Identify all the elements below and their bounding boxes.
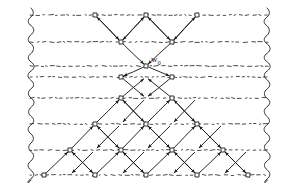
edge-up-right-10 [148,152,170,173]
node-marker-r6-3 [221,148,225,152]
node-marker-r0-0 [93,13,97,17]
node-marker-r6-2 [170,148,174,152]
dotted-horizontal-3 [30,77,267,78]
edge-up-right-1 [174,17,195,40]
edge-up-right-11 [199,152,221,173]
dotted-horizontal-0 [30,15,267,16]
lattice-node [93,122,97,126]
edge-up-right-9 [97,152,119,173]
lattice-node [119,40,123,44]
node-marker-r5-1 [144,122,148,126]
dotted-horizontal-6 [30,150,268,151]
node-marker-r2-0 [144,64,148,68]
edge-down-left-3 [124,67,143,76]
dotted-horizontal-4 [30,98,266,99]
lattice-node [93,13,97,17]
lattice-node [68,148,72,152]
node-marker-r7-4 [246,173,250,177]
left-wave [28,8,34,183]
dotted-horizontal-2 [30,66,268,67]
node-marker-r5-2 [195,122,199,126]
edge-up-right-3 [97,100,119,122]
lattice-node [170,96,174,100]
edge-up-right-5 [72,126,93,148]
edge-up-right-7 [174,126,195,148]
lattice-node [195,173,199,177]
node-marker-r7-2 [144,173,148,177]
node-marker-r7-0 [42,173,46,177]
node-marker-r7-1 [93,173,97,177]
lattice-edges [46,17,246,173]
lattice-node [119,75,123,79]
lattice-node [170,40,174,44]
label-subscript: 0 [158,59,161,66]
lattice-node [221,148,225,152]
lattice-node [119,96,123,100]
edge-up-left-1 [148,17,170,40]
edge-down-right-2 [123,44,144,64]
lattice-node [144,173,148,177]
lattice-node [144,122,148,126]
lattice-node [170,75,174,79]
lattice-node [144,64,148,68]
node-marker-r0-2 [195,13,199,17]
lattice-node [144,13,148,17]
lattice-node [246,173,250,177]
causal-diamond-lattice-figure: w0 [0,0,298,188]
lattice-node [42,173,46,177]
diagram-canvas [0,0,298,188]
lattice-node [119,148,123,152]
dotted-horizontal-1 [30,42,268,43]
right-wave [264,8,270,183]
node-marker-r1-1 [170,40,174,44]
edge-up-right-6 [123,126,144,148]
node-marker-r1-0 [119,40,123,44]
dotted-horizontal-5 [30,124,267,125]
label-w0: w0 [151,55,161,66]
lattice-node [195,13,199,17]
edge-down-right-3 [149,67,169,76]
node-marker-r3-0 [119,75,123,79]
edge-up-right-8 [46,152,68,173]
node-marker-r4-1 [170,96,174,100]
node-marker-r3-1 [170,75,174,79]
node-marker-r5-0 [93,122,97,126]
node-marker-r4-0 [119,96,123,100]
lattice-node [93,173,97,177]
edge-up-right-4 [148,100,170,122]
lattice-node [195,122,199,126]
lattice-node [170,148,174,152]
node-marker-r6-1 [119,148,123,152]
node-marker-r6-0 [68,148,72,152]
edge-up-left-0 [97,17,119,40]
edge-up-right-0 [123,17,144,40]
node-marker-r7-3 [195,173,199,177]
node-marker-r0-1 [144,13,148,17]
